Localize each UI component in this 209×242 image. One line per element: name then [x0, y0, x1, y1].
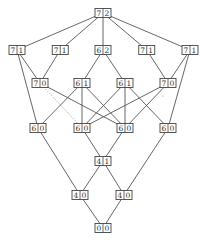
- node-right-value: 0: [82, 191, 87, 200]
- node-4-0: 40: [116, 191, 132, 200]
- edge-n7-n10: [38, 83, 82, 128]
- node-left-value: 7: [162, 79, 167, 88]
- node-6-1: 61: [74, 79, 90, 88]
- node-6-0: 60: [117, 124, 133, 133]
- node-4-1: 41: [95, 157, 111, 166]
- node-7-1: 71: [9, 46, 25, 55]
- node-right-value: 1: [148, 46, 153, 55]
- edge-n0-n4: [103, 13, 147, 50]
- edge-n10-n15: [38, 128, 80, 195]
- node-left-value: 0: [97, 224, 102, 233]
- node-left-value: 4: [74, 191, 79, 200]
- node-6-0: 60: [160, 124, 176, 133]
- node-left-value: 6: [32, 124, 37, 133]
- edge-n0-n5: [103, 13, 190, 50]
- node-right-value: 0: [126, 191, 131, 200]
- node-left-value: 7: [11, 46, 16, 55]
- node-7-2: 72: [95, 9, 111, 18]
- node-right-value: 2: [105, 46, 110, 55]
- node-left-value: 7: [54, 46, 59, 55]
- node-4-0: 40: [72, 191, 88, 200]
- edge-n0-n1: [17, 13, 103, 50]
- node-right-value: 0: [127, 124, 132, 133]
- node-7-0: 70: [32, 79, 48, 88]
- node-right-value: 0: [105, 224, 110, 233]
- node-right-value: 0: [84, 124, 89, 133]
- node-6-0: 60: [74, 124, 90, 133]
- node-6-0: 60: [30, 124, 46, 133]
- node-6-2: 62: [95, 46, 111, 55]
- node-right-value: 1: [192, 46, 197, 55]
- node-left-value: 6: [119, 124, 124, 133]
- node-left-value: 7: [184, 46, 189, 55]
- node-right-value: 0: [40, 124, 45, 133]
- node-right-value: 1: [84, 79, 89, 88]
- node-right-value: 0: [170, 124, 175, 133]
- edge-n5-n13: [168, 50, 190, 128]
- node-right-value: 1: [105, 157, 110, 166]
- node-6-1: 61: [117, 79, 133, 88]
- node-left-value: 6: [76, 79, 81, 88]
- node-7-1: 71: [139, 46, 155, 55]
- node-left-value: 6: [76, 124, 81, 133]
- node-7-0: 70: [160, 79, 176, 88]
- node-0-0: 00: [95, 224, 111, 233]
- node-right-value: 2: [105, 9, 110, 18]
- node-right-value: 0: [170, 79, 175, 88]
- node-7-1: 71: [52, 46, 68, 55]
- node-left-value: 6: [119, 79, 124, 88]
- node-right-value: 0: [42, 79, 47, 88]
- edge-n0-n2: [60, 13, 103, 50]
- node-7-1: 71: [182, 46, 198, 55]
- node-left-value: 7: [34, 79, 39, 88]
- lattice-diagram: 727171627171706161706060606041404000: [0, 0, 209, 242]
- node-left-value: 6: [97, 46, 102, 55]
- node-left-value: 7: [140, 46, 145, 55]
- node-left-value: 4: [118, 191, 123, 200]
- node-left-value: 7: [97, 9, 102, 18]
- edge-n13-n16: [124, 128, 168, 195]
- node-left-value: 4: [97, 157, 102, 166]
- node-right-value: 1: [127, 79, 132, 88]
- stray-dot: [162, 95, 163, 96]
- node-right-value: 1: [19, 46, 24, 55]
- node-left-value: 6: [162, 124, 167, 133]
- edge-n6-n12: [40, 83, 125, 128]
- edge-n1-n10: [17, 50, 38, 128]
- node-right-value: 1: [62, 46, 67, 55]
